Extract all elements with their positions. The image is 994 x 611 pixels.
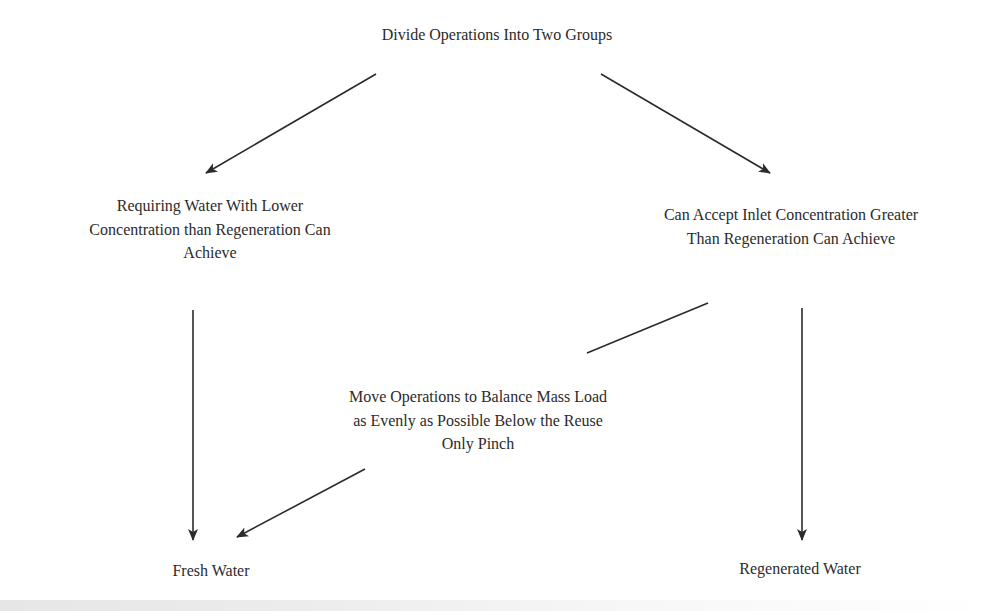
line-right-group-to-balance (587, 303, 708, 353)
node-balance: Move Operations to Balance Mass Load as … (349, 385, 607, 456)
arrow-root-to-right-group (601, 74, 770, 173)
node-right-group: Can Accept Inlet Concentration Greater T… (664, 203, 918, 250)
node-root: Divide Operations Into Two Groups (382, 23, 613, 47)
node-left-group-line: Concentration than Regeneration Can (89, 218, 330, 242)
node-regenerated-water-line: Regenerated Water (739, 557, 860, 581)
arrow-balance-to-fresh-water (237, 469, 365, 537)
node-balance-line: as Evenly as Possible Below the Reuse (349, 409, 607, 433)
node-left-group-line: Requiring Water With Lower (89, 194, 330, 218)
node-left-group: Requiring Water With Lower Concentration… (89, 194, 330, 265)
node-root-line: Divide Operations Into Two Groups (382, 23, 613, 47)
flowchart-canvas: Divide Operations Into Two Groups Requir… (0, 0, 994, 611)
node-balance-line: Only Pinch (349, 432, 607, 456)
node-left-group-line: Achieve (89, 241, 330, 265)
scan-edge-band (0, 600, 994, 611)
connector-layer (0, 0, 994, 611)
node-right-group-line: Can Accept Inlet Concentration Greater (664, 203, 918, 227)
node-fresh-water: Fresh Water (172, 559, 249, 583)
node-balance-line: Move Operations to Balance Mass Load (349, 385, 607, 409)
arrow-root-to-left-group (206, 74, 376, 173)
node-regenerated-water: Regenerated Water (739, 557, 860, 581)
node-right-group-line: Than Regeneration Can Achieve (664, 227, 918, 251)
node-fresh-water-line: Fresh Water (172, 559, 249, 583)
